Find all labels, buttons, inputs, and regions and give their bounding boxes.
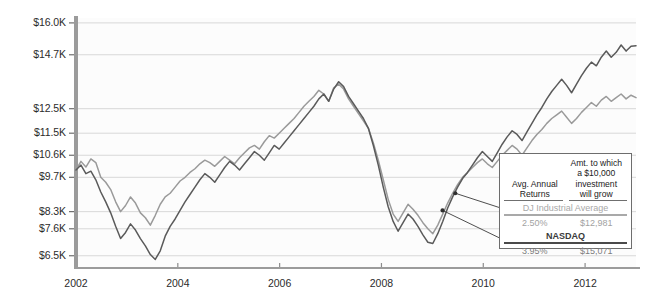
- x-axis-tick-label: 2008: [370, 277, 393, 289]
- legend-series-dj-label: DJ Industrial Average: [500, 201, 631, 214]
- legend-dj-return: 2.50%: [504, 217, 566, 229]
- legend-header-growth-line3: investment: [567, 179, 627, 189]
- legend-nasdaq-growth: $15,071: [566, 245, 628, 257]
- legend-header-returns-line2: Returns: [505, 189, 565, 199]
- legend-header-growth-line2: a $10,000: [567, 168, 627, 178]
- x-axis-tick-label: 2012: [573, 277, 596, 289]
- legend-dj-growth: $12,981: [566, 217, 628, 229]
- x-axis-tick-label: 2004: [166, 277, 189, 289]
- x-axis-tick-label: 2002: [64, 277, 87, 289]
- legend-header-growth: Amt. to which a $10,000 investment will …: [566, 158, 628, 200]
- legend-series-nasdaq-label: NASDAQ: [500, 229, 631, 242]
- legend-header-growth-line1: Amt. to which: [567, 158, 627, 168]
- legend-header-divider-left: [504, 200, 563, 202]
- legend-row-nasdaq: 3.95% $15,071: [500, 244, 631, 257]
- legend-header-divider-right: [569, 200, 628, 202]
- legend-header-returns: Avg. Annual Returns: [504, 179, 566, 200]
- x-axis-tick-label: 2010: [472, 277, 495, 289]
- legend-header-row: Avg. Annual Returns Amt. to which a $10,…: [500, 154, 631, 200]
- legend-header-returns-line1: Avg. Annual: [505, 179, 565, 189]
- legend-row-dj: 2.50% $12,981: [500, 216, 631, 229]
- legend-header-growth-line4: will grow: [567, 189, 627, 199]
- legend-nasdaq-return: 3.95%: [504, 245, 566, 257]
- investment-growth-chart: $16.0K$14.7K$12.5K$11.5K$10.6K$9.7K$8.3K…: [0, 0, 647, 307]
- legend-panel: Avg. Annual Returns Amt. to which a $10,…: [499, 153, 632, 249]
- x-axis-tick-label: 2006: [268, 277, 291, 289]
